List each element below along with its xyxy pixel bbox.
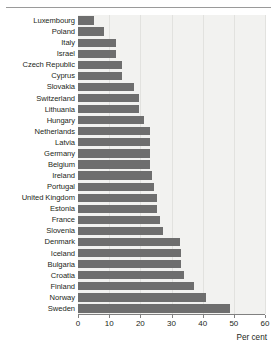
category-label: Bulgaria bbox=[0, 259, 75, 270]
category-label: Lithuania bbox=[0, 104, 75, 115]
bar-row[interactable] bbox=[78, 281, 265, 292]
bar-row[interactable] bbox=[78, 192, 265, 203]
x-tick bbox=[140, 315, 141, 318]
bar-row[interactable] bbox=[78, 37, 265, 48]
bar-series bbox=[78, 15, 265, 314]
category-label: Denmark bbox=[0, 236, 75, 247]
bar[interactable] bbox=[78, 105, 139, 113]
bar[interactable] bbox=[78, 83, 134, 91]
bar[interactable] bbox=[78, 238, 180, 246]
bar-row[interactable] bbox=[78, 303, 265, 314]
category-label: Slovakia bbox=[0, 81, 75, 92]
bar[interactable] bbox=[78, 39, 116, 47]
bar[interactable] bbox=[78, 138, 150, 146]
bar-row[interactable] bbox=[78, 93, 265, 104]
category-label: France bbox=[0, 214, 75, 225]
bar-row[interactable] bbox=[78, 115, 265, 126]
bar-row[interactable] bbox=[78, 126, 265, 137]
bar[interactable] bbox=[78, 72, 122, 80]
category-axis-labels: LuxembourgPolandItalyIsraelCzech Republi… bbox=[0, 15, 75, 314]
bar-row[interactable] bbox=[78, 270, 265, 281]
bar[interactable] bbox=[78, 116, 144, 124]
bar-row[interactable] bbox=[78, 59, 265, 70]
category-label: Germany bbox=[0, 148, 75, 159]
category-label: Italy bbox=[0, 37, 75, 48]
bar-row[interactable] bbox=[78, 248, 265, 259]
bar-row[interactable] bbox=[78, 181, 265, 192]
bar-row[interactable] bbox=[78, 15, 265, 26]
bar-row[interactable] bbox=[78, 214, 265, 225]
bar[interactable] bbox=[78, 271, 184, 279]
category-label: Poland bbox=[0, 26, 75, 37]
bar-row[interactable] bbox=[78, 104, 265, 115]
x-tick bbox=[109, 315, 110, 318]
bar[interactable] bbox=[78, 282, 194, 290]
category-label: Czech Republic bbox=[0, 59, 75, 70]
x-tick bbox=[234, 315, 235, 318]
bar[interactable] bbox=[78, 149, 150, 157]
chart-figure: LuxembourgPolandItalyIsraelCzech Republi… bbox=[0, 0, 277, 350]
bar-row[interactable] bbox=[78, 159, 265, 170]
category-label: Iceland bbox=[0, 248, 75, 259]
bar[interactable] bbox=[78, 194, 157, 202]
bar[interactable] bbox=[78, 260, 181, 268]
bar-row[interactable] bbox=[78, 137, 265, 148]
category-label: United Kingdom bbox=[0, 192, 75, 203]
bar-row[interactable] bbox=[78, 26, 265, 37]
category-label: Slovenia bbox=[0, 225, 75, 236]
bar-row[interactable] bbox=[78, 148, 265, 159]
category-label: Netherlands bbox=[0, 126, 75, 137]
category-label: Portugal bbox=[0, 181, 75, 192]
x-tick bbox=[203, 315, 204, 318]
category-label: Ireland bbox=[0, 170, 75, 181]
header-rule bbox=[6, 7, 271, 8]
category-label: Estonia bbox=[0, 203, 75, 214]
x-tick-label: 20 bbox=[128, 319, 152, 329]
bar-row[interactable] bbox=[78, 81, 265, 92]
bar-row[interactable] bbox=[78, 236, 265, 247]
bar-row[interactable] bbox=[78, 225, 265, 236]
x-tick-label: 60 bbox=[253, 319, 277, 329]
category-label: Hungary bbox=[0, 115, 75, 126]
bar[interactable] bbox=[78, 16, 94, 24]
bar-row[interactable] bbox=[78, 70, 265, 81]
category-label: Israel bbox=[0, 48, 75, 59]
category-label: Switzerland bbox=[0, 93, 75, 104]
category-label: Finland bbox=[0, 281, 75, 292]
x-tick bbox=[172, 315, 173, 318]
bar[interactable] bbox=[78, 160, 150, 168]
category-label: Belgium bbox=[0, 159, 75, 170]
bar[interactable] bbox=[78, 171, 152, 179]
x-tick bbox=[78, 315, 79, 318]
category-label: Croatia bbox=[0, 270, 75, 281]
x-tick-label: 0 bbox=[66, 319, 90, 329]
bar-row[interactable] bbox=[78, 48, 265, 59]
category-label: Norway bbox=[0, 292, 75, 303]
x-tick-label: 10 bbox=[97, 319, 121, 329]
bar[interactable] bbox=[78, 127, 150, 135]
x-tick bbox=[265, 315, 266, 318]
bar[interactable] bbox=[78, 227, 163, 235]
category-label: Sweden bbox=[0, 303, 75, 314]
category-label: Cyprus bbox=[0, 70, 75, 81]
bar-row[interactable] bbox=[78, 203, 265, 214]
bar[interactable] bbox=[78, 304, 230, 312]
bar-row[interactable] bbox=[78, 259, 265, 270]
bar[interactable] bbox=[78, 205, 157, 213]
bar-row[interactable] bbox=[78, 292, 265, 303]
x-tick-label: 40 bbox=[191, 319, 215, 329]
bar[interactable] bbox=[78, 50, 116, 58]
bar[interactable] bbox=[78, 27, 104, 35]
bar[interactable] bbox=[78, 249, 181, 257]
bar[interactable] bbox=[78, 293, 206, 301]
bar[interactable] bbox=[78, 216, 160, 224]
x-tick-label: 50 bbox=[222, 319, 246, 329]
x-tick-label: 30 bbox=[160, 319, 184, 329]
bar-row[interactable] bbox=[78, 170, 265, 181]
bar[interactable] bbox=[78, 183, 154, 191]
bar[interactable] bbox=[78, 94, 139, 102]
category-label: Luxembourg bbox=[0, 15, 75, 26]
category-label: Latvia bbox=[0, 137, 75, 148]
bar[interactable] bbox=[78, 61, 122, 69]
x-axis-title: Per cent bbox=[237, 333, 268, 342]
